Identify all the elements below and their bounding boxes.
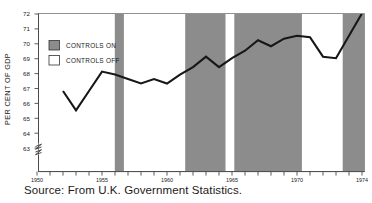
legend-label-controls-off: CONTROLS OFF: [66, 57, 120, 64]
y-tick-label: 72: [23, 10, 30, 17]
x-tick-label: 1960: [161, 177, 173, 183]
x-tick-label: 1974: [356, 177, 368, 183]
legend-swatch-controls-off: [49, 56, 60, 66]
legend-swatch-controls-on: [49, 41, 60, 51]
source-note: Source: From U.K. Government Statistics.: [24, 184, 242, 196]
x-tick-label: 1950: [31, 177, 43, 183]
y-tick-label: 71: [23, 25, 30, 32]
control-band: [343, 14, 364, 171]
y-tick-label: 66: [23, 100, 30, 107]
x-tick-label: 1955: [96, 177, 108, 183]
control-band: [185, 14, 225, 171]
y-axis-title: PER CENT OF GDP: [3, 53, 12, 125]
x-tick-label: 1965: [226, 177, 238, 183]
y-tick-label: 65: [23, 115, 30, 122]
legend-label-controls-on: CONTROLS ON: [66, 42, 116, 49]
y-tick-label: 67: [23, 85, 30, 92]
x-tick-label: 1970: [291, 177, 303, 183]
control-band: [115, 14, 124, 171]
gdp-controls-chart: PER CENT OF GDP 72 71 70 69 68 67 66 65 …: [0, 0, 372, 203]
y-tick-label: 69: [23, 55, 30, 62]
y-tick-label: 68: [23, 70, 30, 77]
y-tick-label: 70: [23, 40, 30, 47]
y-tick-label: 63: [23, 145, 30, 152]
y-tick-label: 64: [23, 130, 30, 137]
